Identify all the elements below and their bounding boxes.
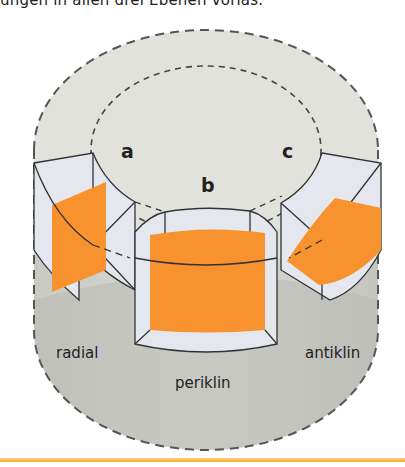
- accent-divider: [0, 458, 405, 462]
- section-label-b: b: [201, 174, 215, 196]
- cylinder-diagram: a b c radial periklin antiklin: [0, 0, 405, 467]
- plane-label-antiklin: antiklin: [305, 344, 360, 362]
- section-label-a: a: [121, 140, 134, 162]
- plane-label-periklin: periklin: [175, 374, 231, 392]
- block-b-periklin: [135, 196, 282, 352]
- section-label-c: c: [282, 140, 293, 162]
- plane-label-radial: radial: [56, 344, 98, 362]
